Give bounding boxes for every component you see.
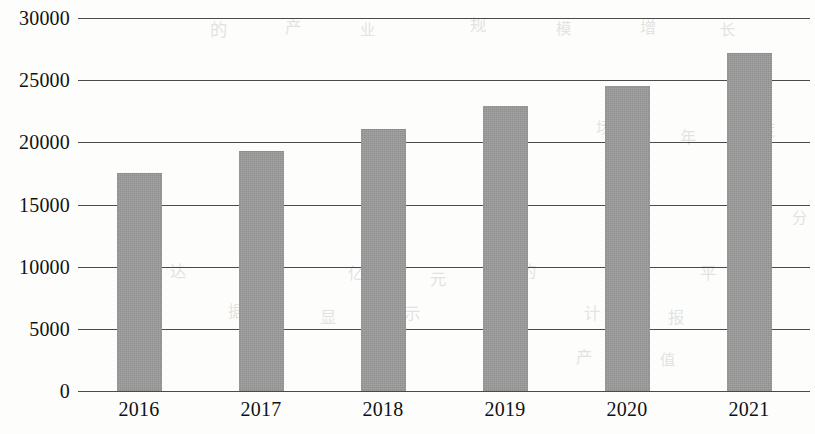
y-axis-tick-labels: 050001000015000200002500030000 <box>0 0 70 434</box>
bar-chart-figure: 的产业规模增长市场年度分个达到亿元的水平数据显示统计报告产值总 05000100… <box>0 0 815 434</box>
y-axis-tick-label: 20000 <box>0 131 70 154</box>
y-axis-tick-label: 15000 <box>0 193 70 216</box>
bar <box>117 173 162 391</box>
bar <box>239 151 284 391</box>
bar <box>727 53 772 391</box>
x-axis-category-label: 2021 <box>729 398 770 421</box>
bar <box>605 86 650 391</box>
plot-area <box>78 0 810 434</box>
y-axis-tick-label: 30000 <box>0 7 70 30</box>
x-axis-category-labels: 201620172018201920202021 <box>78 398 810 432</box>
x-axis-category-label: 2020 <box>607 398 648 421</box>
bar-group <box>78 0 810 434</box>
bar <box>483 106 528 391</box>
bar <box>361 129 406 391</box>
y-axis-tick-label: 0 <box>0 380 70 403</box>
x-axis-category-label: 2016 <box>119 398 160 421</box>
x-axis-category-label: 2018 <box>363 398 404 421</box>
x-axis-category-label: 2019 <box>485 398 526 421</box>
x-axis-category-label: 2017 <box>241 398 282 421</box>
y-axis-tick-label: 5000 <box>0 317 70 340</box>
y-axis-tick-label: 25000 <box>0 69 70 92</box>
y-axis-tick-label: 10000 <box>0 255 70 278</box>
